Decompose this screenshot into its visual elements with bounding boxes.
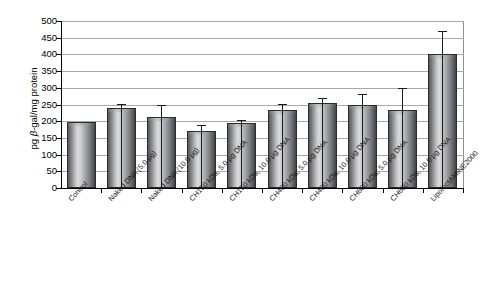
- x-tick-mark: [383, 189, 384, 193]
- x-tick-mark: [141, 189, 142, 193]
- bar-group: [388, 21, 417, 188]
- x-tick-mark: [262, 189, 263, 193]
- y-tick-label: 450: [23, 33, 57, 42]
- x-tick-mark: [463, 189, 464, 193]
- error-bar-cap: [278, 104, 287, 105]
- y-tick-label: 100: [23, 150, 57, 159]
- y-tick-label: 0: [23, 183, 57, 192]
- bar-group: [147, 21, 176, 188]
- bar-group: [227, 21, 256, 188]
- x-tick-mark: [302, 189, 303, 193]
- bar-group: [308, 21, 337, 188]
- bar: [67, 122, 96, 188]
- y-tick-label: 500: [23, 16, 57, 25]
- y-tick-label: 200: [23, 116, 57, 125]
- y-tick-label: 150: [23, 133, 57, 142]
- error-bar: [442, 31, 443, 188]
- error-bar-cap: [358, 94, 367, 95]
- x-tick-mark: [423, 189, 424, 193]
- error-bar: [121, 104, 122, 188]
- error-bar-cap: [438, 31, 447, 32]
- y-tick-label: 50: [23, 166, 57, 175]
- error-bar-cap: [398, 88, 407, 89]
- y-tick-label: 400: [23, 49, 57, 58]
- bar-group: [107, 21, 136, 188]
- bar-group: [428, 21, 457, 188]
- bar-group: [187, 21, 216, 188]
- bar-group: [268, 21, 297, 188]
- error-bar-cap: [197, 125, 206, 126]
- bar-group: [67, 21, 96, 188]
- y-tick-label: 300: [23, 83, 57, 92]
- error-bar-cap: [318, 98, 327, 99]
- x-tick-mark: [182, 189, 183, 193]
- error-bar: [201, 125, 202, 188]
- error-bar-cap: [117, 104, 126, 105]
- x-tick-mark: [101, 189, 102, 193]
- y-tick-label: 250: [23, 100, 57, 109]
- y-tick-label: 350: [23, 66, 57, 75]
- bar-group: [348, 21, 377, 188]
- error-bar-cap: [157, 105, 166, 106]
- x-tick-mark: [222, 189, 223, 193]
- error-bar: [161, 105, 162, 189]
- x-tick-mark: [342, 189, 343, 193]
- error-bar-cap: [237, 120, 246, 121]
- error-bar: [241, 120, 242, 188]
